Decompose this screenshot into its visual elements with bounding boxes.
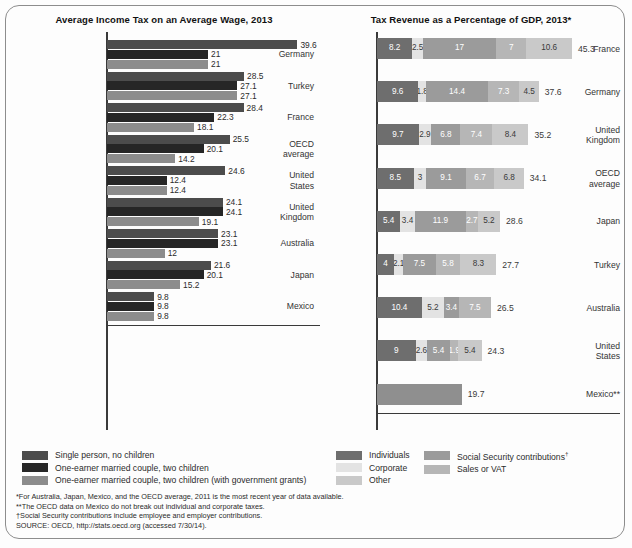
right-segment-value: 9.6: [392, 88, 403, 96]
right-segment-value: 7.3: [498, 88, 509, 96]
right-legend-item: Other: [336, 475, 426, 485]
right-category-label: OECD average: [571, 168, 620, 189]
left-bar-value: 21: [211, 59, 220, 69]
legend-label: Individuals: [369, 450, 410, 460]
right-segment-value: 2.7: [466, 217, 477, 225]
right-segment-value: 2.9: [419, 131, 430, 139]
left-legend-item: One-earner married couple, two children: [22, 463, 322, 473]
right-bar-segment: 8.4: [492, 124, 528, 145]
right-segment-value: 11.9: [433, 217, 448, 225]
left-chart-legend: Single person, no childrenOne-earner mar…: [22, 450, 322, 488]
left-bar-value: 12: [168, 248, 177, 258]
left-bar-value: 22.3: [217, 112, 233, 122]
right-category-label: Japan: [571, 216, 620, 227]
left-legend-item: One-earner married couple, two children …: [22, 475, 322, 485]
right-bar-segment: 8.2: [377, 38, 412, 59]
left-bar-value: 12.4: [170, 175, 186, 185]
right-segment-value: 6.7: [474, 174, 485, 182]
right-bar-segment: 2.1: [394, 254, 403, 275]
left-bar-value: 18.1: [197, 122, 213, 132]
left-bar: [107, 50, 208, 59]
chart-page: Average Income Tax on an Average Wage, 2…: [0, 0, 632, 548]
left-category-label: Mexico: [228, 301, 314, 312]
legend-swatch: [22, 463, 48, 472]
left-bar: [107, 123, 194, 132]
right-bar-total: 24.3: [488, 346, 505, 356]
right-bar-segment: 7.5: [403, 254, 435, 275]
right-bar-segment: 9.7: [377, 124, 419, 145]
right-segment-value: 6.8: [503, 174, 514, 182]
right-bar-segment: 5.4: [377, 211, 400, 232]
right-bar-total: 37.6: [545, 87, 562, 97]
left-bar: [107, 81, 237, 90]
right-segment-value: 7.5: [469, 304, 480, 312]
legend-label: Single person, no children: [55, 450, 154, 460]
right-bar-segment: 7.4: [460, 124, 492, 145]
right-bar-segment: 7.5: [459, 297, 491, 318]
right-bar-segment: 5.8: [436, 254, 461, 275]
left-bar: [107, 292, 154, 301]
right-bar-total: 45.3: [578, 44, 595, 54]
right-baseline-axis: [376, 413, 620, 415]
left-bar-value: 28.4: [247, 103, 263, 113]
footnote-line: †Social Security contributions include e…: [16, 511, 616, 521]
right-bar-segment: 14.4: [426, 81, 488, 102]
right-segment-value: 3.4: [446, 304, 457, 312]
right-segment-value: 6.8: [440, 131, 451, 139]
right-stacked-bar: [377, 384, 462, 405]
left-bar: [107, 176, 167, 185]
right-bar-segment: 3: [414, 168, 427, 189]
right-segment-value: 10.6: [541, 44, 557, 52]
legend-swatch: [22, 451, 48, 460]
right-legend-item: Sales or VAT: [424, 464, 614, 474]
right-bar-segment: 6.7: [466, 168, 495, 189]
left-bar-value: 23.1: [221, 238, 237, 248]
right-bar-segment: 5.2: [422, 297, 444, 318]
right-bar-total: 27.7: [502, 260, 519, 270]
left-bar-value: 25.5: [233, 134, 249, 144]
right-bar-segment: [377, 384, 462, 405]
left-bar-value: 12.4: [170, 185, 186, 195]
left-bar-value: 39.6: [300, 40, 316, 50]
right-legend-item: Corporate: [336, 463, 426, 473]
right-legend-item: Social Security contributions†: [424, 450, 614, 462]
left-category-label: Japan: [228, 270, 314, 281]
right-segment-value: 9: [394, 347, 399, 355]
left-bar: [107, 40, 297, 49]
right-stacked-bar: 92.65.41.95.4: [377, 340, 482, 361]
right-segment-value: 5.2: [483, 217, 494, 225]
right-segment-value: 5.2: [427, 304, 438, 312]
right-segment-value: 5.4: [464, 347, 475, 355]
right-bar-total: 26.5: [497, 303, 514, 313]
right-segment-value: 5.4: [383, 217, 394, 225]
left-bar-value: 24.1: [226, 197, 242, 207]
right-bar-segment: 9.6: [377, 81, 418, 102]
left-bar-value: 15.2: [183, 280, 199, 290]
left-bar-value: 23.1: [221, 229, 237, 239]
right-chart-legend-col1: IndividualsCorporateOther: [336, 450, 426, 488]
footnote-line: **The OECD data on Mexico do not break o…: [16, 502, 616, 512]
right-segment-value: 8.2: [389, 44, 400, 52]
left-bar: [107, 135, 230, 144]
left-bar: [107, 302, 154, 311]
right-bar-total: 34.1: [530, 173, 547, 183]
right-segment-value: 8.4: [505, 131, 516, 139]
right-segment-value: 5.8: [442, 260, 453, 268]
legend-label: Corporate: [369, 463, 407, 473]
right-bar-segment: 5.4: [427, 340, 450, 361]
right-segment-value: 4.5: [523, 88, 534, 96]
right-segment-value: 17: [455, 44, 464, 52]
right-segment-value: 4: [383, 260, 388, 268]
right-bar-segment: 3.4: [444, 297, 459, 318]
right-segment-value: 5.4: [433, 347, 444, 355]
right-category-label: Germany: [571, 86, 620, 97]
left-bar-value: 9.8: [157, 292, 169, 302]
right-stacked-bar: 10.45.23.47.5: [377, 297, 491, 318]
left-bar: [107, 198, 223, 207]
right-segment-value: 2.1: [394, 260, 403, 268]
right-bar-segment: 3.4: [400, 211, 415, 232]
left-bar: [107, 239, 218, 248]
right-stacked-bar: 42.17.55.88.3: [377, 254, 496, 275]
legend-swatch: [22, 476, 48, 485]
left-bar-value: 27.1: [240, 81, 256, 91]
